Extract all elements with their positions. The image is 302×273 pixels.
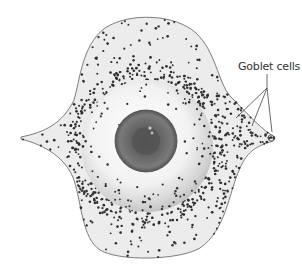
goblet-cells-label: Goblet cells — [238, 60, 300, 73]
iris-highlight — [148, 126, 151, 129]
iris-highlight — [151, 132, 154, 135]
eye-goblet-cells-diagram — [0, 0, 302, 273]
pupil — [132, 127, 160, 155]
